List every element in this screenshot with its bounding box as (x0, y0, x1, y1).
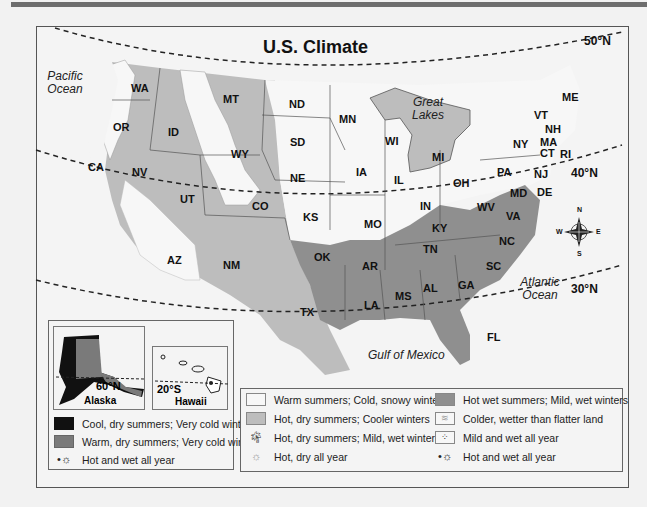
latitude-40: 40°N (571, 166, 598, 180)
state-label: NJ (534, 168, 548, 180)
state-label: AZ (167, 254, 182, 266)
map-title: U.S. Climate (263, 37, 368, 58)
state-label: MI (432, 151, 444, 163)
state-label: CT (540, 147, 555, 159)
great-lakes-label: Great Lakes (408, 96, 448, 122)
state-label: NC (499, 235, 515, 247)
compass-w: W (556, 228, 563, 235)
state-label: OH (453, 177, 470, 189)
state-label: OK (314, 251, 331, 263)
legend-item: Hot wet summers; Mild, wet winters (435, 393, 628, 406)
state-label: IN (420, 200, 431, 212)
state-label: PA (497, 166, 511, 178)
state-label: SC (486, 260, 501, 272)
state-label: TN (423, 243, 438, 255)
gulf-of-mexico-label: Gulf of Mexico (368, 349, 445, 362)
legend-item: ☼ Hot, dry all year (246, 450, 348, 463)
state-label: ME (562, 91, 579, 103)
pacific-ocean-label: Pacific Ocean (44, 70, 86, 96)
legend-item: 🌴︎ Hot, dry summers; Mild, wet winters (246, 431, 440, 444)
state-label: DE (537, 186, 552, 198)
state-label: LA (364, 299, 379, 311)
legend-item: ≋ Colder, wetter than flatter land (435, 412, 603, 425)
state-label: WY (231, 148, 249, 160)
legend-item: Warm, dry summers; Very cold winters (54, 435, 261, 448)
state-label: KY (432, 222, 447, 234)
state-label: VT (534, 109, 548, 121)
sun-dots-icon: •☼ (435, 450, 455, 463)
state-label: MO (364, 218, 382, 230)
state-label: VA (506, 210, 520, 222)
alaska-inset: 60°N Alaska (53, 326, 145, 410)
legend-item: ⁘ Mild and wet all year (435, 431, 559, 444)
atlantic-ocean-label: Atlantic Ocean (515, 276, 565, 302)
hawaii-label: Hawaii (175, 396, 207, 407)
swatch-hot-wet (435, 393, 455, 406)
sun-dots-icon: •☼ (54, 453, 74, 466)
state-label: TX (300, 306, 314, 318)
state-label: WI (385, 135, 398, 147)
sun-icon: ☼ (246, 450, 266, 463)
state-label: NY (513, 138, 528, 150)
legend-item: Hot, dry summers; Cooler winters (246, 412, 430, 425)
state-label: NM (223, 259, 240, 271)
wave-pattern-icon: ≋ (435, 412, 455, 425)
state-label: MS (395, 290, 412, 302)
state-label: WA (131, 82, 149, 94)
latitude-50: 50°N (584, 34, 611, 48)
state-label: WV (477, 201, 495, 213)
legend-main: Warm summers; Cold, snowy winters Hot, d… (240, 388, 623, 472)
state-label: MD (510, 187, 527, 199)
compass-s: S (577, 250, 582, 257)
state-label: SD (290, 136, 305, 148)
swatch-hot-dry-cooler (246, 412, 266, 425)
alaska-label: Alaska (84, 395, 116, 406)
state-label: IA (356, 166, 367, 178)
state-label: OR (113, 121, 130, 133)
legend-item: Warm summers; Cold, snowy winters (246, 393, 447, 406)
state-label: ID (168, 126, 179, 138)
state-label: NH (545, 123, 561, 135)
legend-item: •☼ Hot and wet all year (54, 453, 175, 466)
state-label: AL (423, 282, 438, 294)
state-label: KS (303, 211, 318, 223)
compass-rose-icon (564, 217, 594, 247)
legend-item: •☼ Hot and wet all year (435, 450, 556, 463)
swatch-cool-dry (54, 417, 74, 430)
swatch-warm-cold (246, 393, 266, 406)
state-label: MT (223, 93, 239, 105)
hawaii-inset: 20°S Hawaii (152, 346, 228, 410)
dots-pattern-icon: ⁘ (435, 431, 455, 444)
compass-e: E (596, 228, 601, 235)
state-label: RI (560, 148, 571, 160)
state-label: FL (487, 331, 500, 343)
swatch-warm-dry (54, 435, 74, 448)
hawaii-latitude: 20°S (157, 383, 181, 395)
latitude-30: 30°N (571, 282, 598, 296)
state-label: AR (362, 260, 378, 272)
legend-alaska-hawaii: 60°N Alaska 20°S Hawaii Cool, dry summer… (48, 320, 234, 470)
state-label: GA (458, 279, 475, 291)
alaska-latitude: 60°N (96, 380, 121, 392)
state-label: CO (252, 200, 269, 212)
palm-tree-icon: 🌴︎ (246, 431, 266, 444)
legend-item: Cool, dry summers; Very cold winters (54, 417, 255, 430)
state-label: NE (290, 172, 305, 184)
state-label: CA (88, 161, 104, 173)
state-label: MN (339, 113, 356, 125)
compass-n: N (577, 206, 582, 213)
state-label: ND (289, 98, 305, 110)
state-label: NV (132, 166, 147, 178)
state-label: UT (180, 193, 195, 205)
state-label: IL (394, 174, 404, 186)
